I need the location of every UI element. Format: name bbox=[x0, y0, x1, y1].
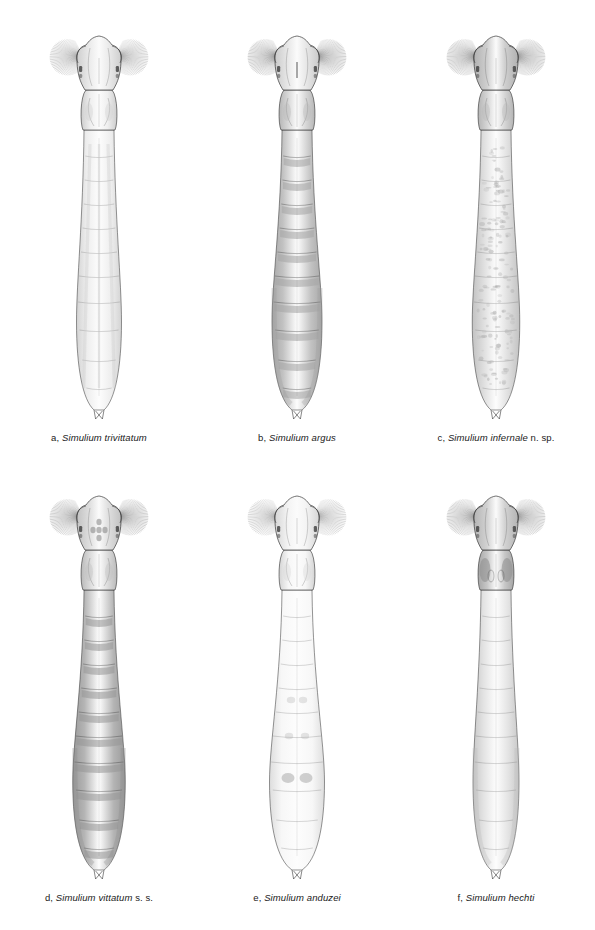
posterior-attachment-organ bbox=[491, 410, 501, 419]
panel-caption: a, Simulium trivittatum bbox=[0, 432, 198, 443]
panel-species: vittatum bbox=[98, 892, 132, 903]
larva-figure bbox=[397, 478, 595, 890]
panel-letter: e, bbox=[253, 892, 261, 903]
larva-figure bbox=[0, 18, 198, 430]
larva-illustration bbox=[397, 478, 595, 890]
panel-species: infernale bbox=[491, 432, 528, 443]
panel-caption: c, Simulium infernale n. sp. bbox=[397, 432, 595, 443]
figure-panel-trivittatum: a, Simulium trivittatum bbox=[0, 18, 198, 443]
panel-caption: e, Simulium anduzei bbox=[198, 892, 396, 903]
figure-panel-infernale: c, Simulium infernale n. sp. bbox=[397, 18, 595, 443]
larva-figure bbox=[198, 18, 396, 430]
panel-genus: Simulium bbox=[62, 432, 102, 443]
larva-illustration bbox=[397, 18, 595, 430]
figure-panel-hechti: f, Simulium hechti bbox=[397, 478, 595, 903]
larva-figure bbox=[397, 18, 595, 430]
figure-plate: a, Simulium trivittatumb, Simulium argus… bbox=[0, 0, 595, 930]
panel-genus: Simulium bbox=[264, 892, 304, 903]
posterior-attachment-organ bbox=[94, 870, 104, 879]
larva-figure bbox=[0, 478, 198, 890]
larva-illustration bbox=[0, 18, 198, 430]
panel-caption: b, Simulium argus bbox=[198, 432, 396, 443]
panel-caption: f, Simulium hechti bbox=[397, 892, 595, 903]
figure-panel-vittatum: d, Simulium vittatum s. s. bbox=[0, 478, 198, 903]
panel-genus: Simulium bbox=[56, 892, 96, 903]
panel-genus: Simulium bbox=[466, 892, 506, 903]
posterior-attachment-organ bbox=[94, 410, 104, 419]
panel-species: anduzei bbox=[307, 892, 341, 903]
panel-letter: c, bbox=[438, 432, 446, 443]
posterior-attachment-organ bbox=[292, 870, 302, 879]
panel-species: trivittatum bbox=[105, 432, 147, 443]
figure-panel-argus: b, Simulium argus bbox=[198, 18, 396, 443]
larva-illustration bbox=[0, 478, 198, 890]
larva-illustration bbox=[198, 18, 396, 430]
posterior-attachment-organ bbox=[292, 410, 302, 419]
panel-species: hechti bbox=[508, 892, 534, 903]
panel-genus: Simulium bbox=[269, 432, 309, 443]
panel-species: argus bbox=[312, 432, 336, 443]
panel-caption: d, Simulium vittatum s. s. bbox=[0, 892, 198, 903]
figure-panel-anduzei: e, Simulium anduzei bbox=[198, 478, 396, 903]
panel-qualifier: s. s. bbox=[135, 892, 153, 903]
panel-letter: b, bbox=[258, 432, 266, 443]
larva-illustration bbox=[198, 478, 396, 890]
panel-letter: d, bbox=[45, 892, 53, 903]
panel-qualifier: n. sp. bbox=[531, 432, 555, 443]
larva-figure bbox=[198, 478, 396, 890]
panel-genus: Simulium bbox=[448, 432, 488, 443]
panel-letter: f, bbox=[458, 892, 463, 903]
panel-letter: a, bbox=[51, 432, 59, 443]
posterior-attachment-organ bbox=[491, 870, 501, 879]
